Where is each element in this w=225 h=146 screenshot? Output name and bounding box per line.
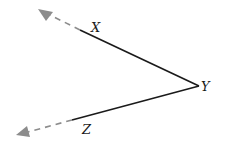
segment-yx — [80, 30, 199, 86]
dashed-extension-z — [28, 120, 72, 132]
label-z: Z — [81, 122, 92, 137]
label-y: Y — [201, 79, 211, 94]
arrowhead-z-icon — [16, 126, 30, 137]
label-x: X — [90, 20, 101, 35]
dashed-extension-x — [50, 15, 80, 30]
arrowhead-x-icon — [38, 9, 53, 21]
angle-diagram: X Y Z — [0, 0, 225, 146]
segment-yz — [72, 86, 199, 120]
